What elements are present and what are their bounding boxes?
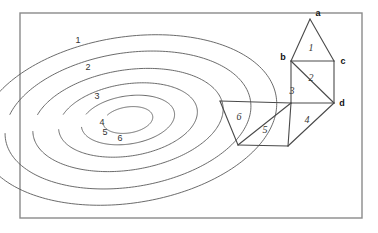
contour-triangulation-figure: 123456 123456 abcd xyxy=(0,0,378,233)
triangle-label-6: 6 xyxy=(237,111,242,122)
contour-lines-group xyxy=(0,35,277,206)
mesh-edge-e-h xyxy=(288,103,291,146)
triangle-label-3: 3 xyxy=(289,85,295,96)
triangle-label-5: 5 xyxy=(263,124,268,135)
contour-label-2: 2 xyxy=(85,62,90,72)
contour-line-1 xyxy=(0,35,277,206)
triangle-mesh-group xyxy=(220,19,334,146)
triangle-label-4: 4 xyxy=(305,114,310,125)
vertex-label-c: c xyxy=(340,56,345,66)
contour-line-5 xyxy=(82,95,175,145)
mesh-edge-d-h xyxy=(288,103,334,146)
mesh-edge-f-g xyxy=(220,101,238,145)
contour-line-6 xyxy=(104,107,153,134)
mesh-edge-a-c xyxy=(310,19,334,61)
vertex-label-b: b xyxy=(280,52,286,62)
contour-line-4 xyxy=(59,83,198,157)
mesh-edge-g-h xyxy=(238,145,288,146)
vertex-label-d: d xyxy=(339,98,345,108)
contour-line-2 xyxy=(5,51,251,189)
contour-label-5: 5 xyxy=(102,127,107,137)
mesh-edge-a-b xyxy=(291,19,310,61)
contour-label-1: 1 xyxy=(75,35,80,45)
mesh-edge-e-f xyxy=(220,101,291,103)
contour-label-4: 4 xyxy=(99,117,104,127)
contour-label-3: 3 xyxy=(94,91,99,101)
triangle-label-1: 1 xyxy=(309,42,314,53)
figure-canvas: 123456 123456 abcd xyxy=(0,0,378,233)
contour-label-6: 6 xyxy=(117,133,122,143)
contour-labels-group: 123456 xyxy=(75,35,122,143)
triangle-label-2: 2 xyxy=(309,72,314,83)
